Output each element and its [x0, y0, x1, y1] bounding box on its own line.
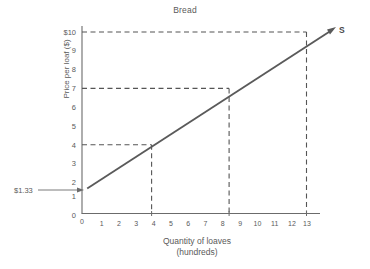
y-tick-label-0: 0 [38, 211, 76, 220]
x-tick-text-13: 13 [300, 220, 314, 227]
y-tick-label-4: 4 [38, 141, 76, 150]
chart-figure: Bread Price per loaf ($) Quantity of loa… [0, 0, 370, 269]
guide-line-price-7 [82, 88, 229, 213]
x-tick-text-1: 1 [95, 220, 109, 227]
guide-line-price-4 [82, 145, 152, 214]
guide-line-price-10 [82, 32, 307, 214]
supply-curve-line [87, 30, 332, 189]
y-tick-label-2: 2 [38, 178, 76, 187]
y-tick-label-3: 3 [38, 159, 76, 168]
x-tick-text-4: 4 [147, 220, 161, 227]
x-tick-text-6: 6 [181, 220, 195, 227]
chart-plot-area [0, 0, 370, 269]
x-tick-text-12: 12 [285, 220, 299, 227]
y-tick-label-5: 5 [38, 122, 76, 131]
x-tick-text-8: 8 [216, 220, 230, 227]
x-tick-text-5: 5 [164, 220, 178, 227]
supply-curve-group [87, 27, 336, 189]
y-tick-label-1: 1 [38, 192, 76, 201]
x-tick-text-9: 9 [233, 220, 247, 227]
y-tick-label-9: 9 [38, 46, 76, 55]
y-tick-label-7: 7 [38, 84, 76, 93]
leader-arrowhead [77, 188, 84, 193]
x-tick-text-3: 3 [129, 220, 143, 227]
y-tick-label-10: $10 [38, 28, 76, 37]
x-tick-text-11: 11 [268, 220, 282, 227]
x-tick-text-7: 7 [199, 220, 213, 227]
y-tick-label-8: 8 [38, 65, 76, 74]
x-tick-text-2: 2 [112, 220, 126, 227]
x-tick-text-10: 10 [250, 220, 264, 227]
y-tick-label-6: 6 [38, 103, 76, 112]
x-tick-text-0: 0 [75, 218, 89, 225]
